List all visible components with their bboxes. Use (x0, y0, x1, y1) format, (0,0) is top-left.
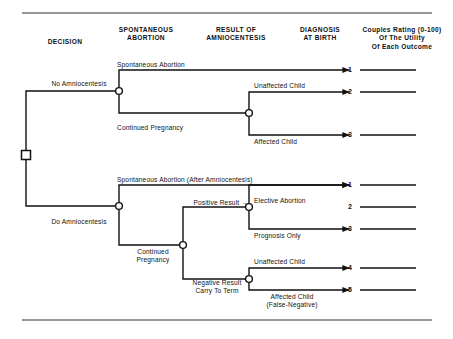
branch-do-amniocentesis (26, 155, 119, 206)
edge-unaffected-child-1 (249, 92, 349, 113)
edge-label-no-amniocentesis: No Amniocentesis (40, 80, 118, 88)
edge-positive-result (183, 207, 249, 245)
edge-label-positive-result: Positive Result → (182, 199, 248, 207)
edge-negative-result (183, 245, 249, 279)
edge-affected-child-1 (249, 113, 349, 135)
outcome-number-outcome-2-top: 2 (342, 88, 352, 95)
edge-label-unaffected-child-1: Unaffected Child (254, 82, 324, 90)
edge-continued-pregnancy-1 (119, 91, 249, 113)
edge-label-negative-result: Negative Result Carry To Term (183, 279, 251, 295)
edge-continued-pregnancy-2 (119, 206, 183, 245)
outcome-number-outcome-1-top: 1 (342, 66, 352, 73)
edge-label-unaffected-child-2: Unaffected Child (254, 258, 324, 266)
outcome-number-outcome-2-bot: 2 (342, 203, 352, 210)
edge-label-prognosis-only: Prognosis Only (254, 232, 324, 240)
edge-affected-child-2 (249, 279, 349, 290)
outcome-number-outcome-3-bot: 3 (342, 225, 352, 232)
edge-prognosis-only (249, 207, 349, 229)
edge-label-continued-pregnancy-1: Continued Pregnancy (117, 124, 217, 132)
branch-no-amniocentesis (26, 91, 119, 155)
outcome-number-outcome-3-top: 3 (342, 131, 352, 138)
edge-label-affected-child-1: Affected Child (254, 138, 324, 146)
edge-unaffected-child-2 (249, 268, 349, 279)
column-header-decision: DECISION (26, 38, 104, 46)
column-header-rating: Couples Rating (0-100) Of The Utility Of… (352, 26, 452, 51)
outcome-number-outcome-1-bot: 1 (342, 181, 352, 188)
edge-label-continued-pregnancy-2: Continued Pregnancy (126, 248, 180, 264)
node-amniocentesis-result-chance (180, 242, 187, 249)
edge-label-do-amniocentesis: Do Amniocentesis (40, 218, 118, 226)
node-root-decision (22, 151, 31, 160)
edge-label-affected-child-2: Affected Child (False-Negative) (252, 293, 332, 309)
column-header-result: RESULT OF AMNIOCENTESIS (188, 26, 284, 43)
node-no-amniocentesis-chance (116, 88, 123, 95)
node-birth-outcome-chance (246, 110, 253, 117)
edge-label-spontaneous-abortion: Spontaneous Abortion (117, 61, 217, 69)
outcome-number-outcome-5-bot: 5 (342, 286, 352, 293)
edge-label-spont-after-amnio: Spontaneous Abortion (After Amniocentesi… (117, 176, 317, 184)
outcome-number-outcome-4-bot: 4 (342, 264, 352, 271)
column-header-spont: SPONTANEOUS ABORTION (104, 26, 188, 43)
node-do-amniocentesis-chance (116, 203, 123, 210)
decision-tree-figure: DECISIONSPONTANEOUS ABORTIONRESULT OF AM… (0, 0, 453, 339)
edge-label-elective-abortion: Elective Abortion (254, 197, 324, 205)
column-header-diagnosis: DIAGNOSIS AT BIRTH (284, 26, 356, 43)
